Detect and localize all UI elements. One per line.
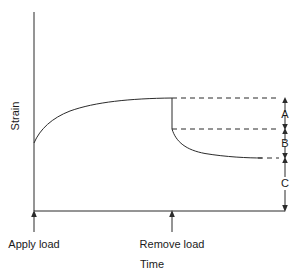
creep-recovery-figure: Strain Time A B C [0,0,303,273]
creep-curve-diagram: Strain Time A B C [0,0,303,273]
x-axis-title: Time [140,258,164,270]
y-axis-title: Strain [9,102,21,131]
segment-label-c: C [281,177,289,189]
segment-label-a: A [281,108,289,120]
apply-load-label: Apply load [8,238,59,250]
remove-load-label: Remove load [140,238,205,250]
segment-b-up-arrowhead [282,128,288,134]
segment-label-b: B [281,137,288,149]
segment-a-up-arrowhead [282,97,288,103]
creep-under-load-curve [34,98,172,143]
recovery-after-unload-curve [172,129,262,158]
segment-c-up-arrowhead [282,157,288,163]
